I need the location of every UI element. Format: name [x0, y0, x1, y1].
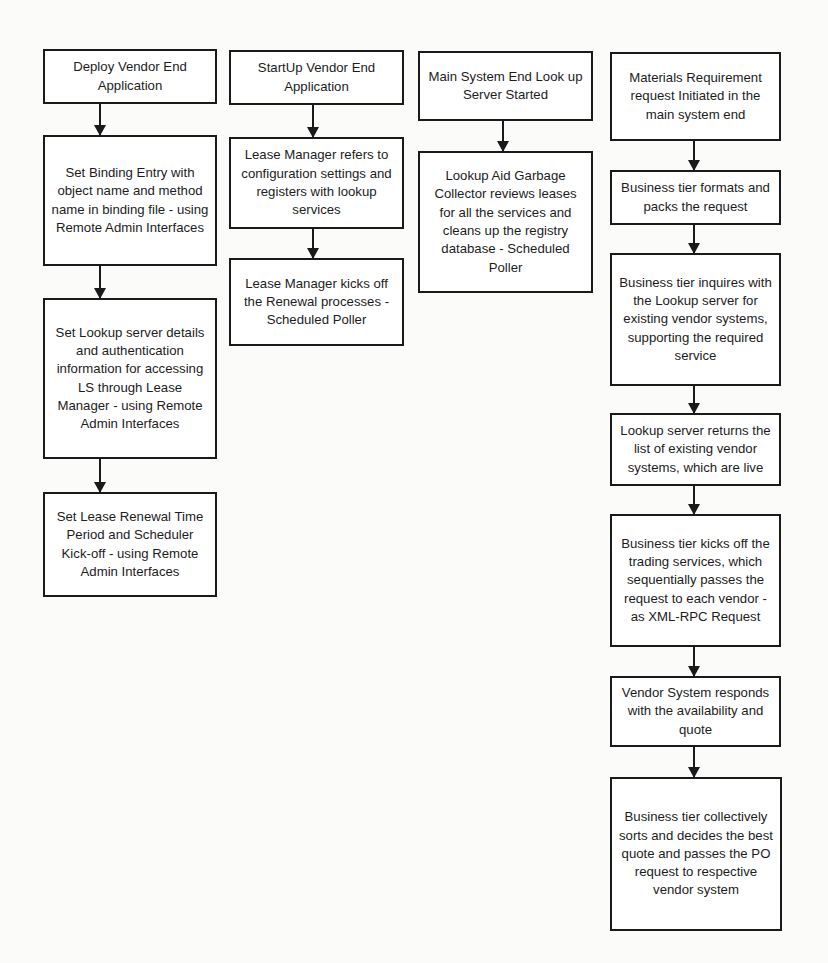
flow-step-lease-manager-renewal: Lease Manager kicks off the Renewal proc… [229, 258, 404, 346]
arrow-down-icon [99, 459, 101, 492]
step-label: Lease Manager kicks off the Renewal proc… [237, 275, 396, 330]
arrow-down-icon [693, 747, 695, 777]
flow-step-lease-manager-registers: Lease Manager refers to configuration se… [229, 137, 404, 229]
flow-step-trading-services: Business tier kicks off the trading serv… [610, 514, 781, 647]
step-label: Materials Requirement request Initiated … [618, 69, 773, 124]
flow-step-set-lookup-server: Set Lookup server details and authentica… [43, 298, 217, 459]
step-label: Set Binding Entry with object name and m… [51, 164, 209, 237]
step-label: Lookup Aid Garbage Collector reviews lea… [426, 167, 585, 277]
step-label: Business tier collectively sorts and dec… [618, 808, 774, 899]
flow-step-lookup-server-started: Main System End Look up Server Started [418, 51, 593, 121]
arrow-down-icon [693, 647, 695, 676]
arrow-down-icon [99, 104, 101, 135]
flow-step-set-lease-renewal: Set Lease Renewal Time Period and Schedu… [43, 492, 217, 597]
arrow-down-icon [502, 121, 504, 151]
step-label: Lookup server returns the list of existi… [618, 422, 773, 477]
step-label: Vendor System responds with the availabi… [618, 684, 773, 739]
flow-step-garbage-collector: Lookup Aid Garbage Collector reviews lea… [418, 151, 593, 293]
step-label: Business tier inquires with the Lookup s… [618, 274, 773, 365]
flow-step-inquire-lookup: Business tier inquires with the Lookup s… [610, 253, 781, 386]
step-label: StartUp Vendor End Application [237, 59, 396, 96]
flow-step-startup-vendor-app: StartUp Vendor End Application [229, 50, 404, 105]
arrow-down-icon [693, 486, 695, 514]
arrow-down-icon [99, 266, 101, 298]
step-label: Lease Manager refers to configuration se… [237, 146, 396, 219]
arrow-down-icon [693, 386, 695, 413]
flow-step-format-request: Business tier formats and packs the requ… [610, 170, 781, 225]
arrow-down-icon [693, 225, 695, 253]
arrow-down-icon [693, 141, 695, 170]
step-label: Deploy Vendor End Application [51, 58, 209, 95]
step-label: Set Lookup server details and authentica… [51, 324, 209, 434]
flow-step-request-initiated: Materials Requirement request Initiated … [610, 52, 781, 141]
arrow-down-icon [312, 105, 314, 137]
flow-step-vendor-responds: Vendor System responds with the availabi… [610, 676, 781, 747]
flow-step-deploy-vendor-app: Deploy Vendor End Application [43, 49, 217, 104]
step-label: Set Lease Renewal Time Period and Schedu… [51, 508, 209, 581]
arrow-down-icon [312, 229, 314, 258]
step-label: Business tier formats and packs the requ… [618, 179, 773, 216]
flow-step-lookup-returns-list: Lookup server returns the list of existi… [610, 413, 781, 486]
step-label: Business tier kicks off the trading serv… [618, 535, 773, 626]
step-label: Main System End Look up Server Started [426, 68, 585, 105]
flow-step-set-binding-entry: Set Binding Entry with object name and m… [43, 135, 217, 266]
flow-step-best-quote-po: Business tier collectively sorts and dec… [610, 777, 782, 931]
